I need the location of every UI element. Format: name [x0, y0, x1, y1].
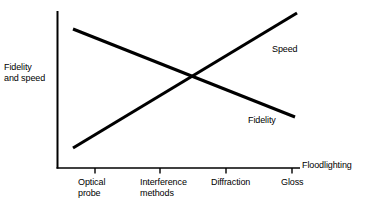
x-tick-label-diffraction: Diffraction	[211, 177, 250, 188]
x-tick-label-line-1: Optical	[78, 177, 105, 187]
x-tick-label-interference-methods: Interferencemethods	[140, 177, 187, 199]
x-tick-label-line-2: methods	[140, 188, 174, 198]
x-axis-label: Floodlighting	[302, 160, 352, 171]
x-tick-label-gloss: Gloss	[281, 177, 304, 188]
series-line-fidelity	[73, 29, 295, 117]
x-tick-label-optical-probe: Opticalprobe	[78, 177, 105, 199]
y-axis-label-line-2: and speed	[4, 73, 45, 83]
chart-figure: Fidelityand speed Floodlighting Opticalp…	[0, 0, 373, 214]
series-line-speed	[73, 13, 297, 148]
x-tick-label-line-1: Interference	[140, 177, 187, 187]
series-label-speed: Speed	[272, 44, 298, 55]
y-axis-label-line-1: Fidelity	[4, 62, 32, 72]
x-tick-label-line-2: probe	[78, 188, 101, 198]
y-axis-label: Fidelityand speed	[4, 62, 56, 84]
series-label-fidelity: Fidelity	[248, 115, 276, 126]
